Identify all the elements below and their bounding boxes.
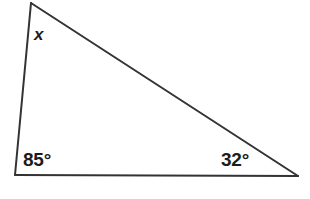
bottom-left-angle-label: 85° bbox=[23, 150, 51, 169]
triangle-hypotenuse-edge bbox=[31, 3, 298, 176]
unknown-angle-label: x bbox=[34, 26, 43, 43]
triangle-angle-diagram: x 85° 32° bbox=[0, 0, 310, 199]
triangle-base-edge bbox=[15, 175, 298, 176]
bottom-right-angle-label: 32° bbox=[221, 150, 249, 169]
